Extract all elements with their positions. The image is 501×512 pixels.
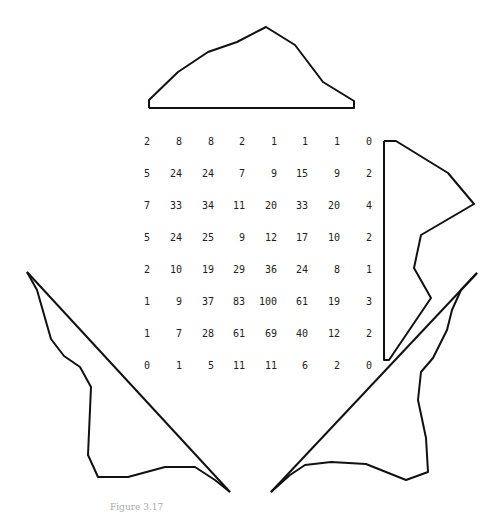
matrix-cell: 40 bbox=[282, 328, 308, 340]
matrix-cell: 7 bbox=[156, 328, 182, 340]
matrix-cell: 7 bbox=[219, 168, 245, 180]
matrix-cell: 19 bbox=[188, 264, 214, 276]
figure-caption: Figure 3.17 bbox=[110, 502, 163, 512]
matrix-cell: 15 bbox=[282, 168, 308, 180]
matrix-cell: 33 bbox=[156, 200, 182, 212]
matrix-cell: 2 bbox=[314, 360, 340, 372]
matrix-cell: 4 bbox=[346, 200, 372, 212]
matrix-cell: 1 bbox=[156, 360, 182, 372]
matrix-cell: 11 bbox=[251, 360, 277, 372]
matrix-cell: 20 bbox=[251, 200, 277, 212]
matrix-cell: 5 bbox=[124, 232, 150, 244]
top-projection-curve bbox=[149, 27, 354, 108]
matrix-cell: 19 bbox=[314, 296, 340, 308]
matrix-cell: 8 bbox=[156, 136, 182, 148]
matrix-cell: 2 bbox=[124, 136, 150, 148]
matrix-cell: 1 bbox=[346, 264, 372, 276]
matrix-cell: 100 bbox=[251, 296, 277, 308]
matrix-cell: 37 bbox=[188, 296, 214, 308]
matrix-cell: 7 bbox=[124, 200, 150, 212]
matrix-cell: 1 bbox=[282, 136, 308, 148]
matrix-cell: 33 bbox=[282, 200, 308, 212]
matrix-cell: 24 bbox=[188, 168, 214, 180]
matrix-cell: 5 bbox=[124, 168, 150, 180]
matrix-cell: 6 bbox=[282, 360, 308, 372]
matrix-cell: 11 bbox=[219, 360, 245, 372]
matrix-cell: 61 bbox=[282, 296, 308, 308]
matrix-cell: 12 bbox=[314, 328, 340, 340]
matrix-cell: 12 bbox=[251, 232, 277, 244]
matrix-cell: 9 bbox=[156, 296, 182, 308]
matrix-cell: 2 bbox=[219, 136, 245, 148]
matrix-cell: 8 bbox=[188, 136, 214, 148]
matrix-cell: 5 bbox=[188, 360, 214, 372]
matrix-cell: 61 bbox=[219, 328, 245, 340]
matrix-cell: 24 bbox=[156, 168, 182, 180]
matrix-cell: 2 bbox=[346, 168, 372, 180]
matrix-cell: 2 bbox=[124, 264, 150, 276]
matrix-cell: 1 bbox=[124, 328, 150, 340]
matrix-cell: 20 bbox=[314, 200, 340, 212]
matrix-cell: 83 bbox=[219, 296, 245, 308]
matrix-cell: 10 bbox=[314, 232, 340, 244]
matrix-cell: 29 bbox=[219, 264, 245, 276]
matrix-cell: 28 bbox=[188, 328, 214, 340]
matrix-cell: 2 bbox=[346, 328, 372, 340]
matrix-cell: 10 bbox=[156, 264, 182, 276]
matrix-cell: 1 bbox=[124, 296, 150, 308]
matrix-cell: 9 bbox=[314, 168, 340, 180]
projection-figure: 2882111052424791592733341120332045242591… bbox=[0, 0, 501, 512]
matrix-cell: 24 bbox=[282, 264, 308, 276]
matrix-cell: 11 bbox=[219, 200, 245, 212]
matrix-cell: 34 bbox=[188, 200, 214, 212]
matrix-cell: 0 bbox=[346, 360, 372, 372]
matrix-cell: 25 bbox=[188, 232, 214, 244]
matrix-cell: 0 bbox=[346, 136, 372, 148]
matrix-cell: 36 bbox=[251, 264, 277, 276]
matrix-cell: 8 bbox=[314, 264, 340, 276]
projection-curves bbox=[0, 0, 501, 512]
matrix-cell: 9 bbox=[251, 168, 277, 180]
matrix-cell: 2 bbox=[346, 232, 372, 244]
matrix-cell: 1 bbox=[314, 136, 340, 148]
matrix-cell: 1 bbox=[251, 136, 277, 148]
right-projection-curve bbox=[384, 141, 474, 360]
matrix-cell: 0 bbox=[124, 360, 150, 372]
matrix-cell: 9 bbox=[219, 232, 245, 244]
matrix-cell: 3 bbox=[346, 296, 372, 308]
matrix-cell: 17 bbox=[282, 232, 308, 244]
matrix-cell: 69 bbox=[251, 328, 277, 340]
matrix-cell: 24 bbox=[156, 232, 182, 244]
